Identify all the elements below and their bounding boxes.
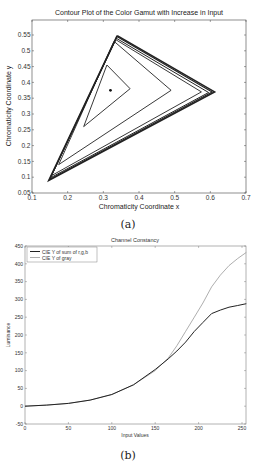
chart-b-caption: (b) xyxy=(120,449,136,462)
center-point xyxy=(109,89,112,92)
x-tick-label: 50 xyxy=(66,425,72,431)
y-tick-label: 200 xyxy=(15,332,24,338)
x-tick-label: 100 xyxy=(108,425,117,431)
x-tick-label: 0.7 xyxy=(241,194,250,201)
x-tick-label: 200 xyxy=(194,425,203,431)
y-tick-label: 0.5 xyxy=(21,47,30,54)
y-tick-label: 0.35 xyxy=(18,94,31,101)
y-tick-label: 100 xyxy=(15,367,24,373)
y-tick-label: 0.3 xyxy=(21,110,30,117)
chart-a-ylabel: Chromaticity Coordinate y xyxy=(5,65,13,146)
chart-a-plot-area xyxy=(32,20,246,193)
y-tick-label: 0 xyxy=(20,403,23,409)
chart-b-title: Channel Constancy xyxy=(111,237,159,243)
chart-a-color-gamut: Contour Plot of the Color Gamut with Inc… xyxy=(5,9,251,231)
legend-label-gray: CIE Y of gray xyxy=(42,255,72,261)
y-tick-label: 350 xyxy=(15,278,24,284)
x-tick-label: 0.3 xyxy=(99,194,108,201)
x-tick-label: 250 xyxy=(238,425,247,431)
y-tick-label: 150 xyxy=(15,350,24,356)
y-tick-label: 50 xyxy=(17,385,23,391)
chart-a-xlabel: Chromaticity Coordinate x xyxy=(99,203,180,211)
y-tick-label: 0.05 xyxy=(18,189,31,196)
y-tick-label: 0.1 xyxy=(21,173,30,180)
y-tick-label: -50 xyxy=(16,421,23,427)
y-tick-label: 250 xyxy=(15,314,24,320)
chart-b-xlabel: Input Values xyxy=(121,432,149,438)
x-tick-label: 0 xyxy=(24,425,27,431)
y-tick-label: 0.25 xyxy=(18,126,31,133)
y-tick-label: 0.55 xyxy=(18,31,31,38)
y-tick-label: 400 xyxy=(15,261,24,267)
x-tick-label: 0.4 xyxy=(134,194,143,201)
y-tick-label: 450 xyxy=(15,243,24,249)
chart-a-title: Contour Plot of the Color Gamut with Inc… xyxy=(55,9,223,17)
x-tick-label: 0.6 xyxy=(206,194,215,201)
chart-b-channel-constancy: Channel Constancy Input Values Luminance… xyxy=(5,237,246,462)
x-tick-label: 0.2 xyxy=(63,194,72,201)
chart-b-ylabel: Luminance xyxy=(5,323,11,348)
y-tick-label: 300 xyxy=(15,296,24,302)
y-tick-label: 0.45 xyxy=(18,63,31,70)
y-tick-label: 0.2 xyxy=(21,142,30,149)
y-tick-label: 0.4 xyxy=(21,79,30,86)
x-tick-label: 0.5 xyxy=(170,194,179,201)
y-tick-label: 0.15 xyxy=(18,158,31,165)
chart-b-legend: CIE Y of sum of r,g,b CIE Y of gray xyxy=(27,247,97,262)
figure: Contour Plot of the Color Gamut with Inc… xyxy=(0,0,258,471)
chart-b-plot-area xyxy=(25,246,246,424)
x-tick-label: 150 xyxy=(151,425,160,431)
chart-a-caption: (a) xyxy=(120,218,135,231)
